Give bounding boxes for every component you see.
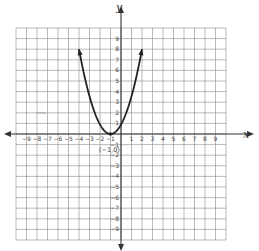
axes	[4, 6, 254, 251]
svg-text:−6: −6	[110, 194, 119, 201]
vertex-label: (−1,0)	[99, 146, 120, 154]
svg-text:−3: −3	[110, 162, 119, 169]
svg-text:7: 7	[193, 135, 197, 142]
svg-text:−9: −9	[110, 225, 119, 232]
svg-text:9: 9	[115, 35, 119, 42]
svg-text:4: 4	[161, 135, 165, 142]
svg-text:2: 2	[140, 135, 144, 142]
svg-text:1: 1	[130, 135, 134, 142]
svg-text:2: 2	[115, 109, 119, 116]
svg-text:3: 3	[115, 98, 119, 105]
svg-text:5: 5	[172, 135, 176, 142]
svg-text:−5: −5	[110, 183, 119, 190]
svg-text:4: 4	[115, 88, 119, 95]
svg-text:6: 6	[115, 66, 119, 73]
svg-text:5: 5	[115, 77, 119, 84]
svg-text:6: 6	[182, 135, 186, 142]
svg-text:−4: −4	[110, 172, 119, 179]
y-axis-label: y	[115, 1, 123, 14]
x-axis-label: x	[243, 128, 250, 141]
svg-text:9: 9	[214, 135, 218, 142]
svg-text:−5: −5	[64, 135, 73, 142]
svg-text:8: 8	[203, 135, 207, 142]
svg-text:−2: −2	[96, 135, 105, 142]
svg-text:7: 7	[115, 56, 119, 63]
svg-text:−9: −9	[22, 135, 31, 142]
svg-text:3: 3	[151, 135, 155, 142]
svg-text:−7: −7	[110, 204, 119, 211]
svg-text:−6: −6	[54, 135, 63, 142]
svg-text:−4: −4	[75, 135, 84, 142]
svg-text:−8: −8	[110, 215, 119, 222]
svg-text:8: 8	[115, 45, 119, 52]
svg-text:−7: −7	[43, 135, 52, 142]
svg-text:−8: −8	[33, 135, 42, 142]
svg-text:−3: −3	[85, 135, 94, 142]
coordinate-plane: −9−8−7−6−5−4−3−2−1123456789−9−8−7−6−5−4−…	[0, 0, 259, 251]
svg-text:1: 1	[115, 119, 119, 126]
